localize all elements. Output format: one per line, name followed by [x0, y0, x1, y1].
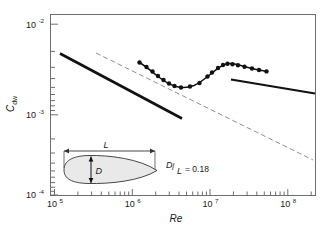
x-tick-label-1e5: 10 5 — [47, 197, 64, 209]
y-tick-label-1e-2: 10 -2 — [26, 17, 45, 29]
y-tick-mantissa-1: 10 — [26, 110, 36, 120]
x-tick-label-1e7: 10 7 — [203, 197, 220, 209]
x-tick-exponent-0: 5 — [60, 197, 64, 204]
x-tick-label-1e6: 10 6 — [125, 197, 142, 209]
x-tick-label-1e8: 10 8 — [280, 197, 297, 209]
airfoil-inset: L D D / L = 0.18 — [64, 140, 209, 184]
data-point — [156, 74, 160, 78]
data-point — [188, 84, 192, 88]
data-point — [250, 66, 254, 70]
inset-ratio-annotation: D / L = 0.18 — [166, 160, 209, 176]
x-tick-exponent-1: 6 — [137, 197, 141, 204]
inset-thickness-label: D — [96, 166, 103, 176]
data-point — [242, 65, 246, 69]
inset-length-label: L — [103, 140, 108, 150]
inset-ratio-denominator: L — [177, 166, 182, 176]
y-axis-ticks — [51, 24, 59, 195]
data-point — [264, 69, 268, 73]
y-tick-label-1e-3: 10 -3 — [26, 108, 45, 120]
data-point — [210, 70, 214, 74]
data-point-markers — [137, 60, 268, 89]
data-point — [167, 81, 171, 85]
data-point — [257, 68, 261, 72]
y-tick-exponent-1: -3 — [39, 108, 45, 115]
inset-length-arrow-right — [150, 149, 155, 154]
inset-ratio-slash: / — [172, 162, 175, 172]
inset-ratio-value: = 0.18 — [185, 164, 209, 174]
airfoil-body — [64, 155, 157, 183]
y-tick-mantissa-2: 10 — [26, 190, 36, 200]
x-axis-title: Re — [170, 213, 183, 224]
data-point — [150, 69, 154, 73]
y-axis-title-sub: dw — [11, 95, 18, 105]
data-point — [197, 81, 201, 85]
x-axis-ticks — [55, 189, 312, 196]
y-axis-title: C dw — [5, 95, 18, 112]
data-point — [137, 60, 141, 64]
x-tick-mantissa-3: 10 — [280, 199, 290, 209]
x-tick-mantissa-2: 10 — [203, 199, 213, 209]
y-tick-mantissa-0: 10 — [26, 20, 36, 30]
x-tick-mantissa-1: 10 — [125, 199, 135, 209]
data-point — [144, 65, 148, 69]
y-tick-label-1e-4: 10 -4 — [26, 188, 45, 200]
x-tick-exponent-3: 8 — [293, 197, 297, 204]
inset-length-arrow-left — [64, 149, 69, 154]
y-tick-exponent-2: -4 — [39, 188, 45, 195]
data-point — [161, 78, 165, 82]
data-point — [179, 85, 183, 89]
data-point — [225, 62, 229, 66]
reference-power-law-dashed-line — [96, 53, 313, 160]
figure-root: 10 -2 10 -3 10 -4 C dw — [0, 0, 330, 228]
data-point — [230, 62, 234, 66]
data-point — [216, 66, 220, 70]
data-point — [205, 74, 209, 78]
wave-drag-chart: 10 -2 10 -3 10 -4 C dw — [0, 0, 330, 228]
y-tick-exponent-0: -2 — [39, 17, 45, 24]
data-point — [221, 63, 225, 67]
x-tick-exponent-2: 7 — [215, 197, 219, 204]
turbulent-theory-line-right — [231, 80, 315, 94]
data-point — [236, 63, 240, 67]
x-tick-mantissa-0: 10 — [47, 199, 57, 209]
data-point — [172, 84, 176, 88]
